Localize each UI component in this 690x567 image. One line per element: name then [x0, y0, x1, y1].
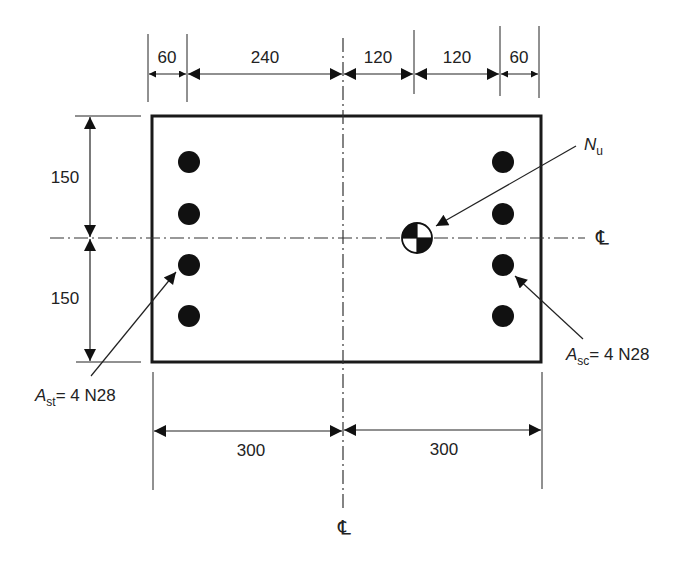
dim-top-1: 60 [158, 48, 177, 67]
compression-bars [492, 151, 514, 327]
dim-left-bottom: 150 [51, 289, 79, 308]
rebar [178, 254, 200, 276]
dim-bottom-right: 300 [430, 440, 458, 459]
compression-steel-leader-arrow [515, 276, 583, 339]
dim-top-3: 120 [364, 48, 392, 67]
section-outline [152, 116, 541, 362]
rebar [178, 151, 200, 173]
dim-top-5: 60 [510, 48, 529, 67]
load-label: Nu [584, 135, 603, 158]
rebar [178, 305, 200, 327]
rebar [492, 305, 514, 327]
tension-bars [178, 151, 200, 327]
left-extension-lines [75, 116, 141, 362]
dim-top-4: 120 [443, 48, 471, 67]
tension-steel-leader-arrow [91, 272, 176, 376]
load-point-icon [402, 223, 432, 253]
bottom-dimension-arrows [154, 430, 541, 431]
dim-top-2: 240 [251, 48, 279, 67]
dim-bottom-left: 300 [237, 441, 265, 460]
tension-steel-label: Ast= 4 N28 [34, 386, 116, 409]
column-section-diagram: 60 240 120 120 60 150 150 300 300 ℄ ℄ [0, 0, 690, 567]
rebar [492, 254, 514, 276]
rebar [492, 203, 514, 225]
rebar [178, 203, 200, 225]
rebar [492, 151, 514, 173]
centerline-symbol-vertical: ℄ [337, 517, 351, 539]
centerline-symbol-horizontal: ℄ [595, 227, 609, 249]
compression-steel-label: Asc= 4 N28 [565, 345, 649, 368]
dim-left-top: 150 [51, 168, 79, 187]
